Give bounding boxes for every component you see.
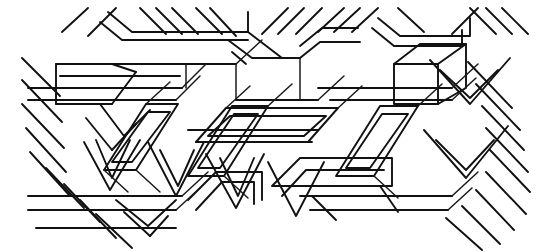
figure-container	[0, 0, 542, 252]
line-art-canvas	[0, 0, 542, 252]
canvas-background	[0, 0, 542, 252]
